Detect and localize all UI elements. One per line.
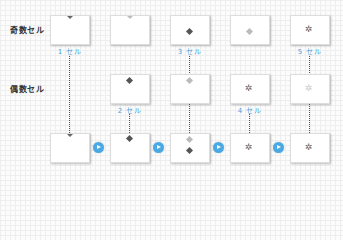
connector (189, 56, 190, 73)
caption-cell-3: 3 セル (165, 46, 215, 56)
play-circle-icon[interactable] (153, 142, 164, 153)
diamond-icon (186, 77, 193, 84)
even-row-label: 偶数セル (10, 83, 44, 94)
diamond-icon (246, 28, 253, 35)
diamond-icon (126, 135, 133, 142)
caption-cell-4: 4 セル (225, 105, 275, 115)
sequence-cell-1 (50, 133, 90, 163)
splash-icon: ✲ (305, 84, 313, 93)
connector (249, 114, 250, 133)
odd-cell-5: ✲ (290, 15, 330, 45)
caption-cell-1: 1 セル (45, 46, 95, 56)
splash-icon: ✲ (305, 143, 313, 152)
connector (309, 104, 310, 133)
splash-icon: ✲ (245, 84, 253, 93)
caption-cell-2: 2 セル (105, 105, 155, 115)
connector (129, 114, 130, 133)
sequence-cell-4: ✲ (230, 133, 270, 163)
diamond-icon (186, 147, 193, 154)
sequence-cell-2 (110, 133, 150, 163)
connector (189, 104, 190, 133)
even-cell-1 (110, 74, 150, 104)
even-cell-3: ✲ (230, 74, 270, 104)
splash-icon: ✲ (305, 25, 313, 34)
odd-cell-1 (50, 15, 90, 45)
odd-cell-3 (170, 15, 210, 45)
diamond-icon (186, 28, 193, 35)
odd-cell-2 (110, 15, 150, 45)
diamond-icon (186, 136, 193, 143)
triangle-marker-icon (67, 16, 73, 19)
even-cell-4: ✲ (290, 74, 330, 104)
odd-row-label: 奇数セル (10, 24, 44, 35)
sequence-cell-3 (170, 133, 210, 163)
triangle-marker-icon (127, 16, 133, 19)
caption-cell-5: 5 セル (285, 46, 335, 56)
splash-icon: ✲ (245, 143, 253, 152)
sequence-cell-5: ✲ (290, 133, 330, 163)
triangle-marker-icon (67, 134, 73, 137)
connector (69, 56, 70, 133)
odd-cell-4 (230, 15, 270, 45)
play-circle-icon[interactable] (273, 142, 284, 153)
play-circle-icon[interactable] (93, 142, 104, 153)
diamond-icon (126, 77, 133, 84)
connector (309, 56, 310, 73)
play-circle-icon[interactable] (213, 142, 224, 153)
even-cell-2 (170, 74, 210, 104)
